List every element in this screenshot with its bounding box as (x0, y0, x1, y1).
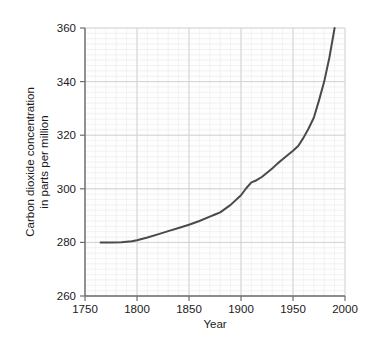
x-tick-label: 1800 (124, 303, 150, 315)
y-tick-label: 340 (57, 76, 76, 88)
x-axis-title: Year (203, 318, 226, 330)
y-tick-label: 360 (57, 22, 76, 34)
y-axis-title-line-1: Carbon dioxide concentration (24, 87, 36, 237)
y-tick-label: 280 (57, 236, 76, 248)
chart-canvas: 260280300320340360 175018001850190019502… (0, 0, 372, 347)
x-tick-label: 1950 (280, 303, 306, 315)
y-tick-label: 300 (57, 183, 76, 195)
y-axis-title-line-2: in parts per million (38, 115, 50, 208)
x-tick-label: 1850 (176, 303, 202, 315)
y-tick-label: 260 (57, 290, 76, 302)
x-tick-label: 1750 (72, 303, 98, 315)
y-tick-label: 320 (57, 129, 76, 141)
x-tick-label: 2000 (332, 303, 358, 315)
co2-concentration-line-chart: 260280300320340360 175018001850190019502… (0, 0, 372, 347)
x-tick-label: 1900 (228, 303, 254, 315)
